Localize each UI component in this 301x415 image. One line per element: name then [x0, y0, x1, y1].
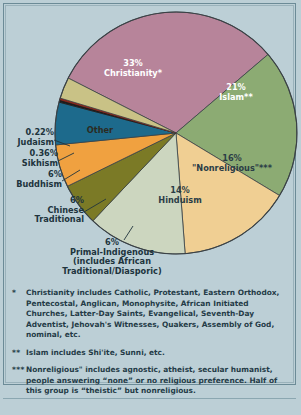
- callout-primal-indigenous: 6% Primal-Indigenous (includes African T…: [36, 238, 188, 276]
- pie-label-christianity-pct: 33%: [123, 58, 143, 68]
- callout-buddhism: 6% Buddhism: [2, 170, 62, 189]
- pie-label-nonreligious-name: "Nonreligious"***: [192, 163, 273, 173]
- footnote-text: Islam includes Shi'ite, Sunni, etc.: [26, 348, 290, 359]
- pie-label-islam-name: Islam**: [219, 92, 253, 102]
- footnote-marker: ***: [12, 365, 26, 397]
- footnote-islam: ** Islam includes Shi'ite, Sunni, etc.: [12, 348, 290, 359]
- callout-chinese-traditional: 6% Chinese Traditional: [2, 196, 84, 225]
- pie-label-christianity-name: Christianity*: [104, 68, 163, 78]
- callout-judaism: 0.22% Judaism: [2, 128, 54, 147]
- footnote-marker: *: [12, 288, 26, 341]
- footnote-marker: **: [12, 348, 26, 359]
- footnote-text: Christianity includes Catholic, Protesta…: [26, 288, 290, 341]
- footnote-christianity: * Christianity includes Catholic, Protes…: [12, 288, 290, 341]
- callout-sikhism: 0.36% Sikhism: [2, 149, 58, 168]
- pie-label-nonreligious-pct: 16%: [222, 153, 242, 163]
- footnote-text: Nonreligious" includes agnostic, atheist…: [26, 365, 290, 397]
- pie-label-hinduism-name: Hinduism: [158, 195, 201, 205]
- chart-page: 33% Christianity* 21% Islam** 16% "Nonre…: [0, 0, 301, 415]
- footnotes: * Christianity includes Catholic, Protes…: [12, 288, 290, 404]
- pie-label-hinduism-pct: 14%: [170, 185, 190, 195]
- pie-label-other: Other: [87, 125, 114, 135]
- pie-label-islam-pct: 21%: [226, 82, 246, 92]
- footnote-nonreligious: *** Nonreligious" includes agnostic, ath…: [12, 365, 290, 397]
